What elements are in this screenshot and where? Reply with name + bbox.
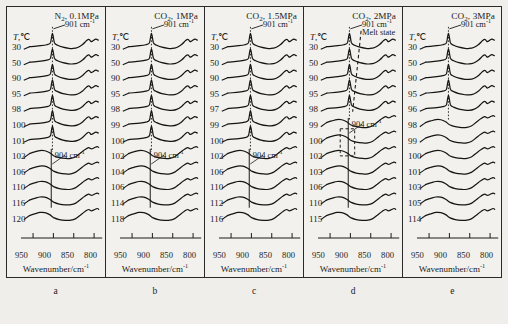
trace-leader bbox=[321, 47, 327, 50]
trace-leader bbox=[24, 62, 30, 65]
x-tick-label: 950 bbox=[213, 250, 226, 260]
spectra-panel-c: CO2, 1.5MPaT,℃901 cm-1904 cm-13050909597… bbox=[205, 7, 304, 277]
spectrum-trace bbox=[30, 80, 99, 95]
trace-leader bbox=[24, 109, 30, 112]
x-tick-label: 850 bbox=[457, 250, 470, 260]
spectra-panel-d: CO2, 2MPaT,℃901 cm-1904 cm-1Melt state30… bbox=[304, 7, 403, 277]
trace-leader bbox=[123, 93, 129, 96]
peak-label-904: 904 cm-1 bbox=[55, 149, 85, 160]
x-axis-c bbox=[205, 229, 304, 247]
trace-leader bbox=[24, 169, 30, 173]
panel-letter-c: c bbox=[204, 286, 303, 296]
spectrum-trace bbox=[426, 147, 495, 159]
peak-label-901: 901 cm-1 bbox=[461, 18, 491, 29]
trace-leader bbox=[420, 47, 426, 50]
peak-901-pointer bbox=[251, 25, 263, 29]
trace-leader bbox=[321, 216, 327, 220]
peak-901-pointer bbox=[152, 25, 164, 29]
x-axis-title-b: Wavenumber/cm-1 bbox=[106, 262, 204, 274]
x-tick-label: 800 bbox=[282, 250, 295, 260]
spectrum-trace bbox=[426, 80, 495, 95]
x-tick-label: 800 bbox=[183, 250, 196, 260]
trace-leader bbox=[222, 47, 228, 50]
spectrum-trace bbox=[228, 80, 297, 95]
spectrum-trace bbox=[327, 95, 396, 110]
trace-leader bbox=[222, 109, 228, 112]
trace-leader bbox=[420, 62, 426, 65]
trace-leader bbox=[24, 140, 30, 143]
peak-label-901: 901 cm-1 bbox=[65, 18, 95, 29]
x-tick-label: 900 bbox=[335, 250, 348, 260]
spectrum-trace bbox=[129, 49, 198, 64]
trace-leader bbox=[420, 138, 426, 142]
spectrum-trace bbox=[327, 64, 396, 79]
x-axis-title-a: Wavenumber/cm-1 bbox=[7, 262, 105, 274]
trace-leader bbox=[420, 123, 426, 127]
trace-leader bbox=[123, 154, 129, 158]
spectrum-trace bbox=[129, 80, 198, 95]
x-axis-d bbox=[304, 229, 403, 247]
spectrum-trace bbox=[228, 64, 297, 79]
melt-state-boundary-line bbox=[353, 31, 361, 112]
trace-leader bbox=[24, 185, 30, 189]
spectrum-trace bbox=[228, 162, 297, 174]
peak-label-901: 901 cm-1 bbox=[263, 18, 293, 29]
spectrum-trace bbox=[30, 126, 99, 141]
peak-901-pointer bbox=[53, 25, 65, 29]
trace-leader bbox=[123, 78, 129, 81]
trace-leader bbox=[321, 123, 327, 127]
spectrum-trace bbox=[426, 193, 495, 205]
spectrum-trace bbox=[426, 208, 495, 220]
spectrum-trace bbox=[426, 64, 495, 79]
peak-901-pointer bbox=[350, 25, 362, 29]
transition-region-box bbox=[340, 129, 354, 156]
panel-letter-d: d bbox=[304, 286, 403, 296]
x-axis-a bbox=[7, 229, 106, 247]
x-tick-label: 900 bbox=[38, 250, 51, 260]
trace-leader bbox=[321, 154, 327, 158]
trace-leader bbox=[222, 62, 228, 65]
spectrum-trace bbox=[426, 116, 495, 128]
trace-leader bbox=[123, 216, 129, 220]
trace-leader bbox=[420, 200, 426, 204]
trace-leader bbox=[222, 216, 228, 220]
trace-leader bbox=[123, 185, 129, 189]
spectrum-trace bbox=[228, 33, 297, 48]
peak-label-904: 904 cm-1 bbox=[253, 149, 283, 160]
spectrum-trace bbox=[129, 208, 198, 220]
spectrum-trace bbox=[228, 126, 297, 141]
panel-letter-b: b bbox=[105, 286, 204, 296]
trace-leader bbox=[420, 216, 426, 220]
trace-leader bbox=[321, 78, 327, 81]
trace-leader bbox=[24, 154, 30, 158]
trace-leader bbox=[123, 200, 129, 204]
spectrum-trace bbox=[30, 208, 99, 220]
spectrum-trace bbox=[129, 178, 198, 190]
trace-leader bbox=[222, 124, 228, 127]
spectrum-trace bbox=[426, 178, 495, 190]
x-tick-label: 800 bbox=[480, 250, 493, 260]
spectrum-trace bbox=[30, 162, 99, 174]
trace-leader bbox=[321, 138, 327, 142]
spectrum-trace bbox=[426, 95, 495, 110]
trace-leader bbox=[123, 169, 129, 173]
spectrum-trace bbox=[228, 208, 297, 220]
trace-leader bbox=[24, 124, 30, 127]
trace-leader bbox=[321, 169, 327, 173]
x-tick-label: 850 bbox=[61, 250, 74, 260]
figure-panel-grid: N2, 0.1MPaT,℃901 cm-1904 cm-130509095981… bbox=[6, 6, 502, 278]
spectrum-trace bbox=[327, 80, 396, 95]
panel-letter-a: a bbox=[6, 286, 105, 296]
trace-leader bbox=[222, 154, 228, 158]
spectrum-trace bbox=[426, 33, 495, 48]
x-tick-label: 850 bbox=[160, 250, 173, 260]
trace-leader bbox=[321, 93, 327, 96]
trace-leader bbox=[123, 62, 129, 65]
trace-leader bbox=[24, 78, 30, 81]
spectrum-trace bbox=[327, 162, 396, 174]
x-tick-label: 900 bbox=[137, 250, 150, 260]
spectrum-trace bbox=[327, 178, 396, 190]
x-axis-title-c: Wavenumber/cm-1 bbox=[205, 262, 303, 274]
x-tick-label: 950 bbox=[312, 250, 325, 260]
trace-leader bbox=[222, 140, 228, 143]
